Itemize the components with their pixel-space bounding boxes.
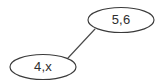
node-bottom[interactable]: 4,x: [10, 55, 76, 80]
graph-diagram: 5,6 4,x: [0, 0, 163, 83]
node-top-label: 5,6: [112, 12, 131, 27]
diagram-canvas: 5,6 4,x: [0, 0, 163, 83]
node-bottom-label: 4,x: [34, 59, 52, 74]
node-top[interactable]: 5,6: [88, 8, 154, 33]
edge-connector-line: [68, 29, 95, 58]
